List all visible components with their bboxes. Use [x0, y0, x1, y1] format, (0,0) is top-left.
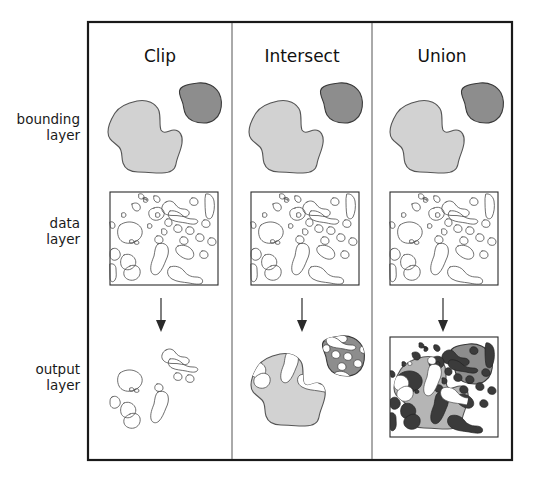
union-data-layer-box: [390, 192, 498, 285]
row-label-bounding-line1: bounding: [17, 111, 80, 127]
column-header-union: Union: [417, 46, 466, 66]
row-label-output-layer: output layer: [35, 361, 80, 393]
intersect-data-layer-box: [251, 192, 359, 285]
overlay-operations-diagram: Clip Intersect Union bounding layer data…: [0, 0, 536, 481]
intersect-data-layer: [251, 192, 359, 285]
clip-data-layer-box: [110, 192, 218, 285]
row-label-data-layer: data layer: [46, 215, 80, 247]
figure-root: Clip Intersect Union bounding layer data…: [0, 0, 536, 481]
row-label-data-line1: data: [50, 215, 80, 231]
row-label-bounding-line2: layer: [46, 127, 80, 143]
union-data-layer: [390, 192, 498, 285]
clip-data-layer: [110, 192, 218, 285]
column-header-clip: Clip: [144, 46, 176, 66]
row-label-data-line2: layer: [46, 231, 80, 247]
row-label-output-line1: output: [35, 361, 80, 377]
row-label-bounding-layer: bounding layer: [17, 111, 81, 143]
column-header-intersect: Intersect: [264, 46, 340, 66]
row-label-output-line2: layer: [46, 377, 80, 393]
